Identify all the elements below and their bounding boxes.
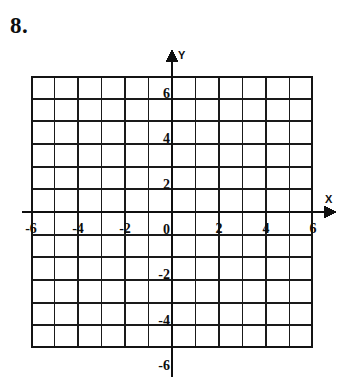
problem-number-label: 8. (10, 14, 28, 37)
y-axis-tick-label: -4 (158, 314, 170, 328)
y-axis-tick-label: 4 (163, 132, 170, 146)
worksheet-page: 8. 6420-2-4-6-6-4-20246 Y X (0, 0, 348, 382)
y-axis-tick-label: 0 (163, 223, 170, 237)
y-axis-tick-label: -2 (158, 268, 170, 282)
y-axis-tick-label: 2 (163, 178, 170, 192)
y-axis-tick-label: -6 (158, 359, 170, 373)
x-axis-tick-label: 6 (310, 222, 317, 236)
x-axis-tick-label: -2 (119, 222, 131, 236)
y-axis-tick-label: 6 (163, 87, 170, 101)
x-axis-tick-label: 2 (216, 222, 223, 236)
x-axis-tick-label: 4 (263, 222, 270, 236)
x-axis-tick-label: -4 (72, 222, 84, 236)
x-axis-label: X (325, 194, 332, 205)
y-axis-label: Y (178, 50, 185, 61)
y-axis-arrow-icon (166, 49, 179, 62)
coordinate-grid (31, 76, 313, 348)
x-axis-tick-label: -6 (25, 222, 37, 236)
grid-lines (31, 76, 313, 348)
x-axis-arrow-icon (324, 206, 337, 219)
